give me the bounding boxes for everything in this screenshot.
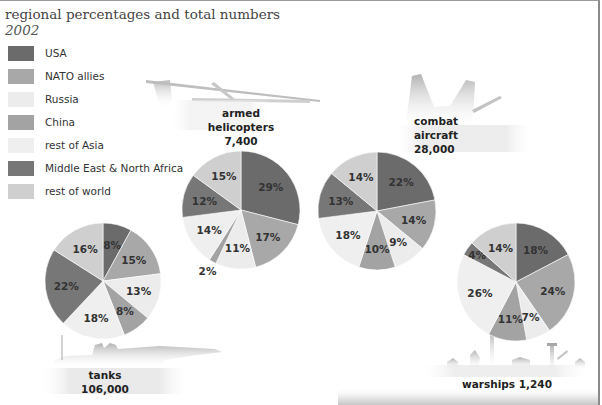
pie-slice-label: 7% <box>522 311 540 323</box>
pie-armed-helicopters: 29%17%11%2%14%12%15% <box>182 151 300 277</box>
pie-charts: 29%17%11%2%14%12%15%22%14%9%10%18%13%14%… <box>45 151 575 341</box>
tanks-total: 106,000 <box>70 382 140 396</box>
pie-slice-label: 8% <box>103 239 121 251</box>
pie-slice-label: 15% <box>211 170 237 182</box>
pie-slice-label: 15% <box>121 254 147 266</box>
tanks-caption: tanks 106,000 <box>70 368 140 396</box>
helicopters-caption-line1: armed <box>205 106 277 120</box>
pie-slice-label: 18% <box>83 312 109 324</box>
pie-tanks: 8%15%13%8%18%22%16% <box>45 223 161 339</box>
charts-canvas: 29%17%11%2%14%12%15%22%14%9%10%18%13%14%… <box>0 0 602 405</box>
pie-slice-label: 13% <box>328 195 354 207</box>
pie-slice-label: 17% <box>255 231 281 243</box>
warships-caption-line1: warships 1,240 <box>462 377 552 391</box>
pie-slice-label: 9% <box>389 236 407 248</box>
pie-slice-label: 22% <box>54 280 80 292</box>
pie-slice-label: 2% <box>199 265 217 277</box>
pie-slice-label: 11% <box>225 242 251 254</box>
aircraft-total: 28,000 <box>414 142 464 156</box>
pie-slice-label: 8% <box>116 305 134 317</box>
pie-slice-label: 14% <box>348 171 374 183</box>
pie-slice-label: 10% <box>364 243 390 255</box>
aircraft-caption: combat aircraft 28,000 <box>414 114 464 156</box>
aircraft-caption-line1: combat <box>414 114 464 128</box>
pie-slice-label: 14% <box>197 224 223 236</box>
warships-caption: warships 1,240 <box>462 377 552 391</box>
pie-slice-label: 18% <box>335 229 361 241</box>
pie-slice-label: 22% <box>389 176 415 188</box>
pie-slice-label: 16% <box>73 243 99 255</box>
pie-slice-label: 18% <box>523 244 549 256</box>
pie-warships: 18%24%7%11%26%4%14% <box>457 223 575 341</box>
tanks-caption-line1: tanks <box>70 368 140 382</box>
pie-slice-label: 29% <box>258 181 284 193</box>
pie-slice-label: 26% <box>467 287 493 299</box>
helicopters-caption: armed helicopters 7,400 <box>205 106 277 148</box>
pie-combat-aircraft: 22%14%9%10%18%13%14% <box>318 152 436 270</box>
pie-slice-label: 11% <box>498 313 524 325</box>
pie-slice-label: 14% <box>488 242 514 254</box>
warship-silhouette-icon <box>338 330 598 405</box>
helicopters-total: 7,400 <box>205 134 277 148</box>
aircraft-caption-line2: aircraft <box>414 128 464 142</box>
pie-slice-label: 13% <box>126 285 152 297</box>
helicopters-caption-line2: helicopters <box>205 120 277 134</box>
pie-slice-label: 24% <box>540 285 566 297</box>
pie-slice-label: 14% <box>401 214 427 226</box>
pie-slice-label: 12% <box>192 195 218 207</box>
